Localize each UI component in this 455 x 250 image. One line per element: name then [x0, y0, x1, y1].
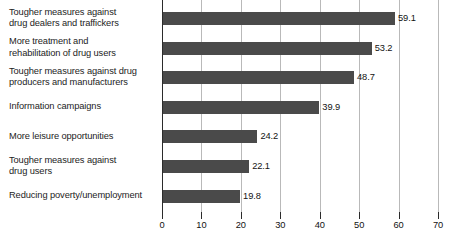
gridline [438, 0, 439, 212]
bar [163, 160, 249, 173]
x-tick-label: 70 [433, 220, 443, 231]
x-tick-mark [201, 212, 202, 219]
category-label: More leisure opportunities [9, 131, 161, 142]
x-tick-label: 10 [196, 220, 206, 231]
x-tick-mark [162, 212, 163, 219]
bar-value-label: 39.9 [322, 101, 340, 114]
bar-value-label: 22.1 [252, 160, 270, 173]
bar-value-label: 53.2 [375, 42, 393, 55]
category-label: More treatment and rehabilitation of dru… [9, 36, 161, 59]
x-tick-label: 50 [354, 220, 364, 231]
category-label: Information campaigns [9, 101, 161, 112]
x-tick-mark [359, 212, 360, 219]
category-label-column: Tougher measures against drug dealers an… [0, 0, 158, 250]
gridline [399, 0, 400, 212]
x-tick-mark [241, 212, 242, 219]
bar [163, 12, 395, 25]
bar [163, 190, 240, 203]
x-axis: 010203040506070 [162, 212, 438, 250]
category-label: Tougher measures against drug producers … [9, 66, 161, 89]
gridline [359, 0, 360, 212]
category-label: Tougher measures against drug dealers an… [9, 7, 161, 30]
x-tick-label: 30 [275, 220, 285, 231]
bar [163, 101, 319, 114]
bar-value-label: 19.8 [243, 190, 261, 203]
bar [163, 130, 257, 143]
bar-value-label: 24.2 [260, 130, 278, 143]
plot-area: 59.153.248.739.924.222.119.8 [162, 0, 438, 212]
x-tick-mark [438, 212, 439, 219]
category-label: Tougher measures against drug users [9, 155, 161, 178]
bar-value-label: 48.7 [357, 71, 375, 84]
bar-value-label: 59.1 [398, 12, 416, 25]
gridline [320, 0, 321, 212]
x-tick-label: 60 [393, 220, 403, 231]
category-label: Reducing poverty/unemployment [9, 190, 161, 201]
x-tick-mark [399, 212, 400, 219]
bar [163, 42, 372, 55]
bar-chart: Tougher measures against drug dealers an… [0, 0, 455, 250]
x-tick-label: 0 [159, 220, 164, 231]
x-tick-mark [320, 212, 321, 219]
x-tick-mark [280, 212, 281, 219]
x-tick-label: 40 [315, 220, 325, 231]
x-tick-label: 20 [236, 220, 246, 231]
bar [163, 71, 354, 84]
